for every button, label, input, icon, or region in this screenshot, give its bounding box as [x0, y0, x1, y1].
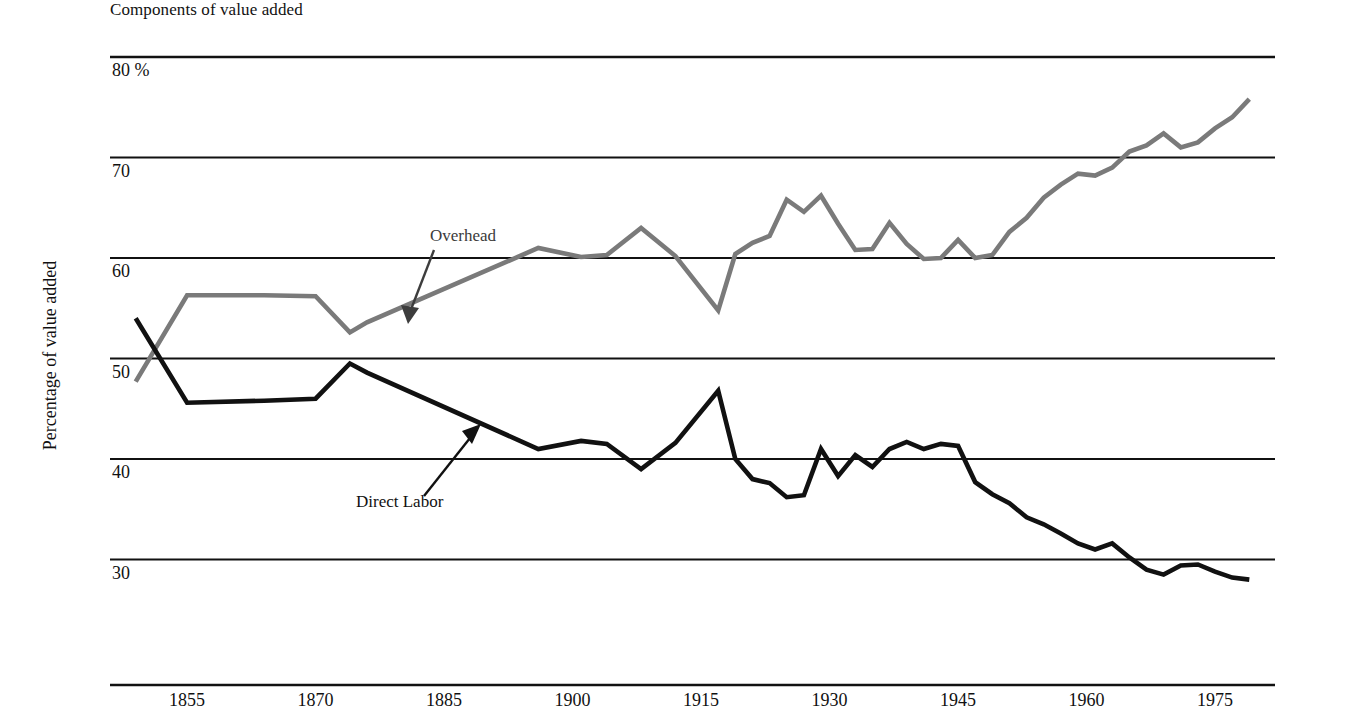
x-tick-label-1900: 1900	[528, 690, 618, 711]
overhead-arrow-line	[410, 250, 434, 312]
y-tick-label-80: 80 %	[112, 60, 150, 81]
y-tick-label-30: 30	[112, 563, 130, 584]
x-tick-label-1975: 1975	[1170, 690, 1260, 711]
series-paths-group	[136, 99, 1250, 579]
y-tick-label-60: 60	[112, 261, 130, 282]
x-tick-label-1870: 1870	[271, 690, 361, 711]
series-label-overhead: Overhead	[430, 226, 496, 246]
series-label-direct-labor: Direct Labor	[356, 492, 443, 512]
y-tick-label-70: 70	[112, 161, 130, 182]
x-tick-label-1855: 1855	[142, 690, 232, 711]
plot-canvas	[0, 0, 1369, 716]
y-tick-label-50: 50	[112, 362, 130, 383]
x-tick-label-1915: 1915	[656, 690, 746, 711]
x-tick-label-1960: 1960	[1042, 690, 1132, 711]
direct-labor-arrow-head	[462, 424, 481, 444]
gridlines-group	[110, 57, 1275, 560]
direct-labor-arrow-line	[424, 433, 474, 496]
series-line-overhead	[136, 99, 1250, 381]
chart-figure: Components of value added Percentage of …	[0, 0, 1369, 716]
overhead-arrow-head	[401, 305, 419, 324]
y-tick-label-40: 40	[112, 462, 130, 483]
x-tick-label-1930: 1930	[785, 690, 875, 711]
x-tick-label-1885: 1885	[399, 690, 489, 711]
x-tick-label-1945: 1945	[913, 690, 1003, 711]
